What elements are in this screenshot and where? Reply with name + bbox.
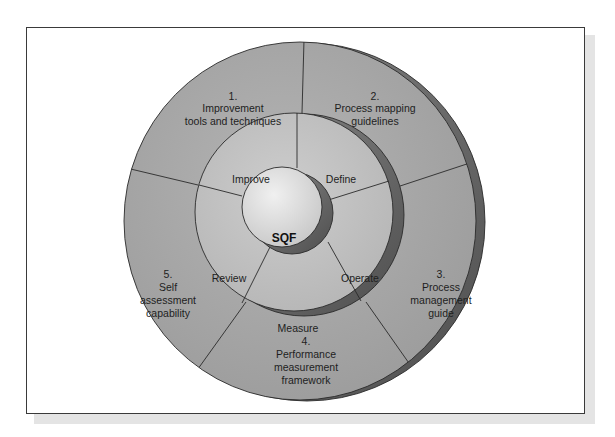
component-3-line-1: Process: [422, 281, 460, 293]
component-3-line-2: management: [410, 294, 471, 306]
cycle-label-measure: Measure: [278, 322, 319, 334]
component-3-line-3: guide: [428, 307, 454, 319]
component-4-line-2: measurement: [274, 361, 338, 373]
component-5-line-2: assessment: [140, 294, 196, 306]
center-label: SQF: [272, 231, 297, 245]
cycle-label-review: Review: [212, 272, 247, 284]
component-5-line-3: capability: [146, 307, 191, 319]
component-1-line-1: Improvement: [202, 102, 263, 114]
component-1-line-2: tools and techniques: [185, 115, 281, 127]
cycle-label-operate: Operate: [341, 272, 379, 284]
component-5-line-1: Self: [159, 281, 177, 293]
component-4-number: 4.: [302, 335, 311, 347]
component-4-line-1: Performance: [276, 348, 336, 360]
component-3-number: 3.: [437, 268, 446, 280]
component-2-number: 2.: [371, 90, 380, 102]
component-4-line-3: framework: [281, 374, 331, 386]
component-5-number: 5.: [164, 268, 173, 280]
sqf-diagram: SQF Improve Define Operate Measure Revie…: [0, 0, 615, 437]
component-1-number: 1.: [229, 90, 238, 102]
component-2-line-2: guidelines: [351, 115, 398, 127]
component-2-line-1: Process mapping: [334, 102, 415, 114]
cycle-label-improve: Improve: [232, 173, 270, 185]
cycle-label-define: Define: [326, 173, 357, 185]
